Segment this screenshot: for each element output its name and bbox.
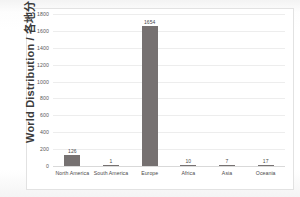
x-axis-tick-label: South America	[94, 170, 128, 176]
bar-group: 7Asia	[208, 14, 247, 166]
bar	[219, 165, 235, 167]
bar	[142, 26, 158, 166]
x-axis-tick-label: North America	[56, 170, 90, 176]
x-axis-tick-label: Africa	[182, 170, 196, 176]
bar-value-label: 126	[68, 149, 77, 154]
bar	[64, 155, 80, 166]
y-axis-tick-label: 1600	[37, 28, 49, 34]
bar-group: 1South America	[92, 14, 131, 166]
y-axis-tick-label: 1800	[37, 11, 49, 17]
y-axis-tick-label: 200	[40, 146, 49, 152]
y-axis-tick-label: 600	[40, 112, 49, 118]
bar-group: 1654Europe	[130, 14, 169, 166]
y-axis-title: World Distribution / 各地分布	[21, 0, 37, 143]
bar-value-label: 7	[226, 159, 229, 164]
x-axis-tick-label: Europe	[141, 170, 158, 176]
y-axis-tick-label: 1200	[37, 62, 49, 68]
bar-group: 10Africa	[169, 14, 208, 166]
y-axis-tick-label: 0	[46, 163, 49, 169]
bar-group: 17Oceania	[246, 14, 285, 166]
bar	[180, 165, 196, 167]
y-axis-tick-label: 1400	[37, 45, 49, 51]
bar-series: 126North America1South America1654Europe…	[53, 14, 285, 166]
gridline	[53, 166, 285, 167]
chart-figure: World Distribution / 各地分布 18001600140012…	[0, 0, 300, 197]
bar-value-label: 1654	[144, 20, 156, 25]
bar-group: 126North America	[53, 14, 92, 166]
x-axis-tick-label: Oceania	[256, 170, 276, 176]
x-axis-tick-label: Asia	[222, 170, 232, 176]
y-axis-tick-label: 800	[40, 95, 49, 101]
bar	[258, 165, 274, 167]
y-axis-tick-label: 1000	[37, 79, 49, 85]
y-axis-tick-label: 400	[40, 129, 49, 135]
bar-value-label: 10	[185, 159, 191, 164]
bar-value-label: 17	[263, 159, 269, 164]
bar-value-label: 1	[110, 159, 113, 164]
plot-area: 180016001400120010008006004002000 126Nor…	[53, 14, 285, 166]
bar	[103, 165, 119, 167]
